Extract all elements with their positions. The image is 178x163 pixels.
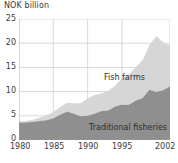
series-label-fish-farms: Fish farms xyxy=(104,73,145,82)
y-tick-25: 25 xyxy=(6,15,16,23)
y-tick-15: 15 xyxy=(6,63,16,71)
series-label-traditional-fisheries: Traditional fisheries xyxy=(89,123,167,132)
x-tick-1995: 1995 xyxy=(112,142,132,151)
x-tick-1985: 1985 xyxy=(44,142,64,151)
x-tick-2002: 2002 xyxy=(155,142,175,151)
x-tick-1980: 1980 xyxy=(10,142,30,151)
y-tick-5: 5 xyxy=(11,111,16,119)
y-tick-20: 20 xyxy=(6,39,16,47)
y-tick-10: 10 xyxy=(6,87,16,95)
x-tick-1990: 1990 xyxy=(78,142,98,151)
y-axis-tick-labels: 25 20 15 10 5 0 xyxy=(0,0,16,163)
chart-screenshot: NOK billion 25 20 15 10 5 0 1980 1985 19… xyxy=(0,0,178,163)
plot-area xyxy=(19,19,170,140)
stacked-area-chart xyxy=(19,19,170,140)
